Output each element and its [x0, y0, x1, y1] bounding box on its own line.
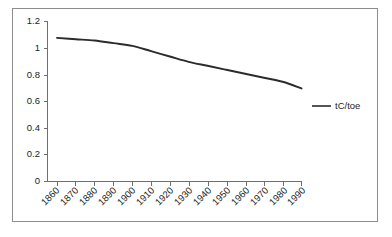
legend-label-tctoe: tC/toe	[335, 100, 360, 111]
x-tick-label-1870: 1870	[58, 185, 81, 208]
x-tick-label-1900: 1900	[115, 185, 138, 208]
x-tick-label-1950: 1950	[210, 185, 233, 208]
x-axis-ticks	[57, 182, 302, 187]
x-tick-label-1930: 1930	[172, 185, 195, 208]
y-tick-label-0: 0	[35, 175, 40, 186]
x-axis-tick-labels: 1860 1870 1880 1890 1900 1910 1920 1930 …	[39, 185, 308, 208]
y-tick-label-0.4: 0.4	[27, 122, 40, 133]
x-tick-label-1920: 1920	[153, 185, 176, 208]
chart-figure: 0 0.2 0.4 0.6 0.8 1 1.2 1860	[12, 8, 378, 222]
x-tick-label-1970: 1970	[248, 185, 271, 208]
y-tick-label-0.8: 0.8	[27, 69, 40, 80]
legend: tC/toe	[312, 100, 360, 111]
axes-group	[48, 22, 302, 182]
x-tick-label-1960: 1960	[229, 185, 252, 208]
x-tick-label-1940: 1940	[191, 185, 214, 208]
x-tick-label-1880: 1880	[77, 185, 100, 208]
x-tick-label-1860: 1860	[39, 185, 62, 208]
y-tick-label-1.2: 1.2	[27, 15, 40, 26]
x-tick-label-1890: 1890	[96, 185, 119, 208]
x-tick-label-1980: 1980	[267, 185, 290, 208]
y-tick-label-1: 1	[35, 42, 40, 53]
series-line-tctoe	[57, 38, 302, 89]
y-tick-label-0.2: 0.2	[27, 148, 40, 159]
line-chart-plot: 0 0.2 0.4 0.6 0.8 1 1.2 1860	[13, 9, 379, 223]
y-axis-ticks: 0 0.2 0.4 0.6 0.8 1 1.2	[27, 15, 48, 186]
x-tick-label-1910: 1910	[134, 185, 157, 208]
y-tick-label-0.6: 0.6	[27, 95, 40, 106]
x-tick-label-1990: 1990	[285, 185, 308, 208]
series-group	[57, 38, 302, 89]
